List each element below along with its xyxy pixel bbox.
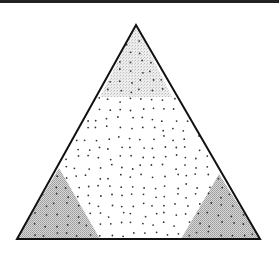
data-point xyxy=(88,168,90,170)
data-point xyxy=(77,196,79,198)
data-point xyxy=(173,225,175,227)
data-point xyxy=(149,70,151,72)
data-point xyxy=(162,88,164,90)
data-point xyxy=(99,178,101,180)
data-point xyxy=(199,223,201,225)
data-point xyxy=(163,108,165,110)
data-point xyxy=(195,167,197,169)
data-point xyxy=(163,205,165,207)
data-point xyxy=(143,202,145,204)
data-point xyxy=(163,221,165,223)
data-point xyxy=(165,156,167,158)
data-point xyxy=(98,97,100,99)
data-point xyxy=(34,212,36,214)
data-point xyxy=(175,214,177,216)
data-point xyxy=(130,51,132,53)
data-point xyxy=(120,127,122,129)
data-point xyxy=(164,176,166,178)
data-point xyxy=(199,203,201,205)
data-point xyxy=(221,187,223,189)
data-point xyxy=(95,127,97,129)
data-point xyxy=(184,164,186,166)
data-point xyxy=(187,205,189,207)
data-point xyxy=(130,110,132,112)
data-point xyxy=(67,224,69,226)
data-point xyxy=(185,183,187,185)
data-point xyxy=(119,68,121,70)
data-point xyxy=(109,109,111,111)
data-point xyxy=(132,168,134,170)
data-point xyxy=(207,174,209,176)
data-point xyxy=(34,234,36,236)
data-point xyxy=(66,232,68,234)
data-point xyxy=(43,235,45,237)
data-point xyxy=(133,232,135,234)
data-point xyxy=(78,205,80,207)
data-point xyxy=(67,215,69,217)
data-point xyxy=(88,186,90,188)
data-point xyxy=(53,202,55,204)
data-point xyxy=(232,205,234,207)
data-point xyxy=(178,233,180,235)
data-point xyxy=(107,98,109,100)
data-point xyxy=(189,221,191,223)
data-point xyxy=(66,177,68,179)
data-point xyxy=(87,127,89,129)
data-point xyxy=(107,178,109,180)
data-point xyxy=(229,193,231,195)
data-point xyxy=(152,90,154,92)
data-point xyxy=(108,138,110,140)
data-point xyxy=(87,155,89,157)
data-point xyxy=(163,196,165,198)
data-point xyxy=(130,155,132,157)
data-point xyxy=(208,226,210,228)
data-point xyxy=(173,108,175,110)
data-point xyxy=(142,72,144,74)
data-point xyxy=(56,214,58,216)
data-point xyxy=(196,187,198,189)
data-point xyxy=(174,98,176,100)
data-point xyxy=(208,192,210,194)
data-point xyxy=(100,167,102,169)
data-point xyxy=(65,187,67,189)
data-point xyxy=(162,130,164,132)
data-point xyxy=(172,128,174,130)
data-point xyxy=(95,120,97,122)
data-point xyxy=(57,232,59,234)
data-point xyxy=(119,155,121,157)
data-point xyxy=(139,139,141,141)
data-point xyxy=(161,120,163,122)
data-point xyxy=(44,226,46,228)
data-point xyxy=(206,166,208,168)
data-point xyxy=(67,196,69,198)
data-point xyxy=(175,147,177,149)
data-point xyxy=(138,88,140,90)
data-point xyxy=(174,203,176,205)
data-point xyxy=(155,188,157,190)
data-point xyxy=(87,195,89,197)
data-point xyxy=(131,128,133,130)
data-point xyxy=(34,223,36,225)
data-point xyxy=(120,90,122,92)
data-point xyxy=(129,213,131,215)
data-point xyxy=(122,235,124,237)
data-point xyxy=(97,185,99,187)
data-point xyxy=(143,193,145,195)
data-point xyxy=(112,205,114,207)
data-point xyxy=(65,166,67,168)
data-point xyxy=(131,193,133,195)
data-point xyxy=(220,197,222,199)
data-point xyxy=(78,222,80,224)
data-point xyxy=(243,214,245,216)
data-point xyxy=(75,175,77,177)
data-point xyxy=(99,147,101,149)
data-point xyxy=(121,195,123,197)
data-point xyxy=(138,40,140,42)
data-point xyxy=(100,223,102,225)
data-point xyxy=(156,231,158,233)
data-point xyxy=(78,155,80,157)
data-point xyxy=(139,164,141,166)
data-point xyxy=(117,116,119,118)
data-point xyxy=(185,197,187,199)
data-point xyxy=(218,215,220,217)
